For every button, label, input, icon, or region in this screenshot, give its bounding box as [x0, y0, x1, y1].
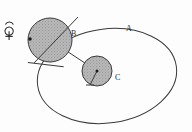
label-body-b: B [71, 30, 76, 38]
label-body-c: C [115, 74, 120, 82]
label-orbit-a: A [126, 25, 132, 33]
center-dot-c [96, 70, 99, 73]
mercury-symbol-icon [5, 22, 13, 40]
circle-b-body [28, 18, 72, 62]
marker-dot-b [28, 37, 32, 41]
diagram-canvas: A B C [0, 0, 192, 132]
diagram-svg [0, 0, 192, 132]
